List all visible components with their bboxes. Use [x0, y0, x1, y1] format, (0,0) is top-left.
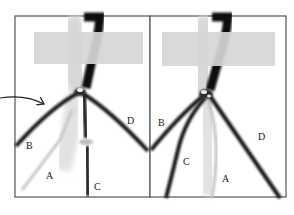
- right-label-a: A: [222, 173, 230, 184]
- diagram-canvas: B A C D B C A D: [0, 0, 294, 215]
- left-strand-c: [87, 146, 88, 196]
- left-label-c: C: [94, 181, 101, 192]
- right-label-d: D: [258, 131, 265, 142]
- right-tape-strip: [162, 32, 275, 66]
- knot-diagram: B A C D B C A D: [0, 0, 294, 215]
- left-panel: [15, 16, 150, 197]
- right-knot: [199, 89, 213, 99]
- left-label-d: D: [127, 115, 134, 126]
- left-label-a: A: [46, 170, 54, 181]
- left-strand-c-upper: [84, 95, 86, 138]
- right-label-c: C: [183, 156, 190, 167]
- right-label-b: B: [158, 117, 165, 128]
- right-panel: [150, 16, 286, 198]
- left-tape-strip: [34, 32, 143, 64]
- left-label-b: B: [26, 140, 33, 151]
- left-knot: [74, 88, 86, 96]
